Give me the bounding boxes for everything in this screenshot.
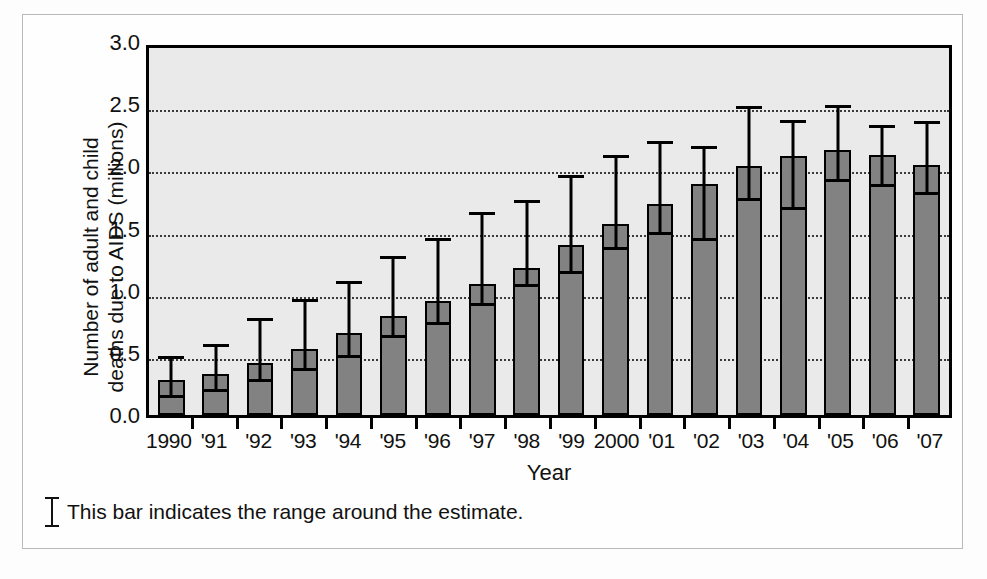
bar-slot	[149, 48, 193, 415]
error-bar	[614, 155, 617, 247]
error-bar-cap-bottom	[603, 247, 629, 250]
x-tick-label: '96	[415, 429, 460, 453]
bar[interactable]	[824, 150, 851, 415]
error-bar-cap-bottom	[558, 271, 584, 274]
bar[interactable]	[647, 204, 674, 415]
error-bar-cap-top	[914, 121, 940, 124]
error-bar-cap-top	[558, 175, 584, 178]
error-bar-cap-bottom	[469, 303, 495, 306]
x-tick-mark	[639, 418, 642, 429]
error-bar	[792, 120, 795, 207]
bar-slot	[727, 48, 771, 415]
x-tick-label: '03	[729, 429, 774, 453]
error-bar-cap-bottom	[425, 322, 451, 325]
bar-slot	[816, 48, 860, 415]
error-bar-cap-bottom	[736, 198, 762, 201]
y-tick-label: 0.5	[74, 341, 140, 367]
error-bar-cap-bottom	[825, 179, 851, 182]
error-bar-cap-bottom	[514, 284, 540, 287]
error-bar	[747, 106, 750, 198]
x-tick-label: '01	[639, 429, 684, 453]
error-bar	[703, 146, 706, 238]
y-tick-label: 1.5	[74, 217, 140, 243]
x-tick-mark	[504, 418, 507, 429]
error-bar-cap-bottom	[292, 368, 318, 371]
bar-slot	[549, 48, 593, 415]
error-bar-cap-bottom	[380, 335, 406, 338]
error-bar	[570, 175, 573, 271]
error-bar-cap-top	[514, 200, 540, 203]
error-bar-cap-top	[425, 238, 451, 241]
bar-slot	[860, 48, 904, 415]
x-tick-label: '07	[907, 429, 952, 453]
error-bar-cap-top	[380, 256, 406, 259]
error-bar-cap-top	[247, 318, 273, 321]
error-bar-cap-top	[203, 344, 229, 347]
y-tick-label: 0.0	[74, 403, 140, 429]
bar[interactable]	[736, 166, 763, 415]
x-tick-mark	[325, 418, 328, 429]
error-bar-cap-bottom	[691, 238, 717, 241]
x-tick-label: '05	[818, 429, 863, 453]
x-tick-label: '99	[549, 429, 594, 453]
y-tick-label: 2.0	[74, 154, 140, 180]
x-axis-title: Year	[146, 460, 952, 486]
error-bar-cap-top	[469, 212, 495, 215]
bar-slot	[416, 48, 460, 415]
x-tick-label: 1990	[146, 429, 192, 453]
x-tick-mark	[862, 418, 865, 429]
x-tick-label: '97	[460, 429, 505, 453]
bar-slot	[593, 48, 637, 415]
x-tick-mark	[818, 418, 821, 429]
error-bar-cap-top	[292, 299, 318, 302]
x-tick-mark	[594, 418, 597, 429]
bar[interactable]	[913, 165, 940, 415]
x-tick-mark	[280, 418, 283, 429]
error-bar-cap-bottom	[158, 395, 184, 398]
x-tick-mark	[683, 418, 686, 429]
x-tick-label: '06	[863, 429, 908, 453]
x-tick-label: '93	[281, 429, 326, 453]
x-tick-mark	[459, 418, 462, 429]
error-bar-cap-top	[736, 106, 762, 109]
y-tick-label: 3.0	[74, 30, 140, 56]
error-bar-cap-bottom	[647, 232, 673, 235]
plot-area	[146, 45, 952, 418]
error-bar	[347, 281, 350, 356]
error-bar	[170, 356, 173, 395]
x-tick-mark	[236, 418, 239, 429]
bar[interactable]	[869, 155, 896, 415]
bar-slot	[904, 48, 948, 415]
error-bar	[392, 256, 395, 336]
error-bar	[836, 105, 839, 178]
bar-series	[149, 48, 949, 415]
bar[interactable]	[513, 268, 540, 415]
bar-slot	[682, 48, 726, 415]
bar-slot	[238, 48, 282, 415]
error-bar-cap-top	[603, 155, 629, 158]
bar-slot	[193, 48, 237, 415]
x-axis-ticks	[146, 418, 952, 429]
footnote-text: This bar indicates the range around the …	[67, 500, 523, 524]
x-tick-mark	[191, 418, 194, 429]
error-bar-cap-bottom	[869, 184, 895, 187]
bar-slot	[371, 48, 415, 415]
y-tick-label: 1.0	[74, 279, 140, 305]
bar[interactable]	[602, 224, 629, 415]
x-tick-label: 2000	[594, 429, 640, 453]
error-bar-cap-top	[158, 356, 184, 359]
x-tick-label: '94	[326, 429, 371, 453]
error-bar-cap-top	[691, 146, 717, 149]
x-axis-tick-labels: 1990'91'92'93'94'95'96'97'98'992000'01'0…	[146, 429, 952, 453]
error-bar-icon	[44, 497, 60, 527]
error-bar	[481, 212, 484, 303]
error-bar-cap-top	[825, 105, 851, 108]
x-tick-mark	[907, 418, 910, 429]
error-bar-cap-top	[647, 141, 673, 144]
error-bar	[925, 121, 928, 192]
error-bar	[659, 141, 662, 232]
x-tick-mark	[370, 418, 373, 429]
error-bar-cap-top	[336, 281, 362, 284]
x-tick-label: '95	[370, 429, 415, 453]
error-bar-cap-bottom	[247, 379, 273, 382]
